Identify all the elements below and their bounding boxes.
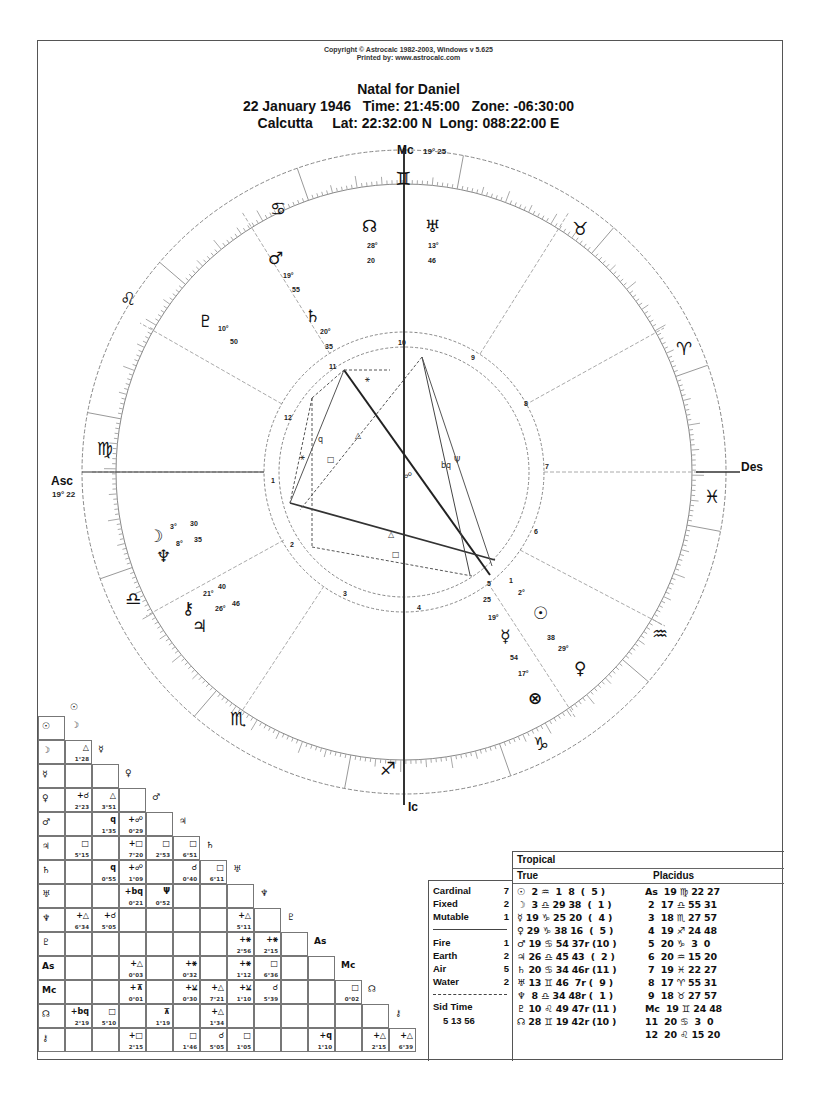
aspect-row-label: ⚷	[42, 1033, 49, 1043]
aspect-orb: 1°28	[75, 756, 89, 762]
ic-label: Ic	[408, 800, 418, 814]
aspect-cell: +△6°34	[65, 908, 92, 932]
aspect-symbol: □	[270, 959, 278, 968]
zodiac-type: Tropical	[513, 854, 784, 865]
table-divider	[513, 868, 784, 869]
node-type: True	[513, 870, 593, 881]
virgo-icon: ♍	[97, 440, 113, 458]
aspect-cell	[65, 764, 92, 788]
stat-water: Water2	[433, 976, 511, 987]
aspect-cell	[146, 1028, 173, 1052]
aspect-cell	[146, 860, 173, 884]
aspect-cell	[92, 764, 119, 788]
aspect-symbol: ⊼	[164, 1007, 171, 1016]
stat-cardinal: Cardinal7	[433, 885, 511, 896]
mercury-degree: 19°	[488, 614, 499, 621]
aspect-orb: 3°51	[102, 804, 116, 810]
uranus-icon: ♅	[425, 218, 440, 235]
aspect-symbol: △	[110, 791, 116, 800]
aspect-cell	[119, 1004, 146, 1028]
sun-icon: ☉	[533, 605, 548, 622]
uranus-degree: 13°	[428, 242, 439, 249]
aspect-col-label: ♆	[260, 888, 268, 898]
house-cusp-row: 7 19 ♓ 22 27	[645, 964, 717, 975]
aspect-orb: 0°01	[129, 996, 143, 1002]
aspect-symbol: +△	[211, 983, 224, 992]
aspect-col-label: Mc	[341, 960, 355, 970]
aspect-col-label: ♄	[206, 840, 214, 850]
house-12-number: 12	[284, 414, 292, 421]
aspect-orb: 1°12	[237, 972, 251, 978]
planet-position-row: ♀ 29 ♑ 38 16 ( 5 )	[517, 925, 613, 936]
aspect-cell: □6°11	[200, 860, 227, 884]
aspect-orb: 0°40	[183, 876, 197, 882]
aspect-row-label: ☽	[42, 745, 50, 755]
svg-text:q: q	[318, 435, 323, 444]
house-2-number: 2	[290, 541, 294, 548]
aspect-cell: □2°53	[146, 836, 173, 860]
sid-time-label: Sid Time	[433, 1001, 511, 1012]
aspect-symbol: +△	[76, 911, 89, 920]
house-cusp-row: 3 18 ♏ 27 57	[645, 912, 717, 923]
aspect-symbol: □	[108, 1007, 116, 1016]
house-cusp-row: 8 17 ♈ 55 31	[645, 977, 717, 988]
aspect-symbol: Ψ	[163, 887, 170, 896]
aspect-cell: △1°28	[65, 740, 92, 764]
aspect-col-label: ♅	[233, 864, 241, 874]
aspect-cell	[335, 1004, 362, 1028]
house-9-number: 9	[471, 354, 475, 361]
stat-air: Air5	[433, 963, 511, 974]
aspect-cell	[92, 932, 119, 956]
house-10-number: 10	[398, 339, 406, 346]
aspect-symbol: ☌	[273, 983, 278, 992]
aspect-orb: 2°15	[264, 948, 278, 954]
saturn-degree: 20°	[320, 328, 331, 335]
aspect-row-header: ♃	[38, 836, 65, 860]
aspect-orb: 1°09	[129, 876, 143, 882]
mercury-extra-minute: 54	[510, 654, 518, 661]
aspect-cell	[119, 908, 146, 932]
aspect-cell	[65, 932, 92, 956]
planet-position-row: ☉ 2 ♒ 1 8 ( 5 )	[517, 886, 605, 897]
des-label: Des	[741, 460, 763, 474]
aspect-cell: □5°15	[65, 836, 92, 860]
aspect-symbol: +△	[400, 1031, 413, 1040]
aspect-row-label: ♂	[42, 817, 50, 827]
aspect-orb: 1°46	[183, 1044, 197, 1050]
moon-degree: 3°	[170, 523, 177, 530]
aspect-orb: 1°05	[237, 1044, 251, 1050]
venus-icon: ♀	[574, 660, 586, 677]
aspect-cell	[146, 908, 173, 932]
aspect-orb: 1°19	[156, 1020, 170, 1026]
scorpio-icon: ♏	[230, 710, 246, 728]
stats-divider-2	[433, 994, 507, 995]
aspect-orb: 2°23	[75, 804, 89, 810]
venus-degree: 29°	[558, 645, 569, 652]
aspect-symbol: +☌	[104, 911, 116, 920]
mc-degree: 19° 25	[423, 147, 446, 156]
aspect-symbol: □	[243, 1031, 251, 1040]
aspect-cell	[146, 980, 173, 1004]
aspect-row-label: ♃	[42, 841, 50, 851]
aspect-row-header: ♀	[38, 788, 65, 812]
chiron-minute: 40	[218, 583, 226, 590]
aspect-cell: +⊼0°01	[119, 980, 146, 1004]
aspect-symbol: +□	[129, 839, 143, 848]
aspect-cell	[146, 932, 173, 956]
planet-position-row: ☿ 19 ♑ 25 20 ( 4 )	[517, 912, 612, 923]
aspect-symbol: +⚹	[185, 959, 197, 969]
svg-text:□: □	[392, 550, 400, 559]
table-divider	[513, 883, 784, 884]
pluto-minute: 50	[230, 338, 238, 345]
aspect-cell: +⚺1°10	[227, 980, 254, 1004]
aspect-cell: □1°46	[173, 1028, 200, 1052]
house-1-number: 1	[271, 477, 275, 484]
aspect-col-label: ☉	[70, 702, 78, 712]
aspect-symbol: +△	[130, 959, 143, 968]
capricorn-icon: ♑	[533, 735, 549, 753]
aspect-symbol: +△	[238, 911, 251, 920]
house-cusp-row: 12 20 ♌ 15 20	[645, 1029, 720, 1040]
aspect-row-label: As	[42, 961, 54, 971]
house-cusp-row: 6 20 ♒ 15 20	[645, 951, 717, 962]
aspect-cell	[65, 980, 92, 1004]
